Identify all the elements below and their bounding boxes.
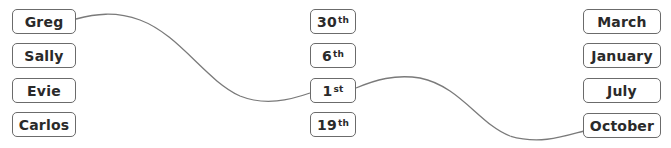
connection-1st-october xyxy=(356,77,584,140)
date-card-19th[interactable]: 19th xyxy=(310,112,356,137)
month-card-march[interactable]: March xyxy=(583,9,661,34)
name-card-evie[interactable]: Evie xyxy=(12,78,76,103)
month-card-october[interactable]: October xyxy=(583,113,661,138)
name-card-carlos[interactable]: Carlos xyxy=(12,112,76,137)
name-card-greg[interactable]: Greg xyxy=(12,9,76,34)
date-card-30th[interactable]: 30th xyxy=(310,9,356,34)
date-card-6th[interactable]: 6th xyxy=(310,43,356,68)
month-card-january[interactable]: January xyxy=(583,43,661,68)
name-card-sally[interactable]: Sally xyxy=(12,43,76,68)
month-card-july[interactable]: July xyxy=(583,78,661,103)
date-card-1st[interactable]: 1st xyxy=(310,78,356,103)
connection-greg-1st xyxy=(76,14,310,101)
